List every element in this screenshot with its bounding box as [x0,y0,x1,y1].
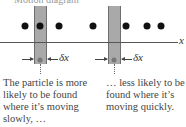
note-line: likely to be found [3,89,95,101]
note-line: moving quickly. [106,101,186,113]
note-line: where it’s moving [3,101,95,113]
interval-arrow-left [95,59,107,60]
fast-region-note: … less likely to be found where it’s mov… [106,77,186,113]
note-line: The particle is more [3,77,95,89]
particle-dot [144,23,151,30]
probability-marker [112,58,117,63]
leader-line [40,64,41,74]
interval-arrow-right [122,59,132,60]
note-line: … less likely to be [106,77,186,89]
top-caption: Motion diagram [14,0,79,5]
x-axis-label: x [179,34,184,46]
particle-dot [56,23,63,30]
interval-arrow-right [48,59,58,60]
slow-region-note: The particle is more likely to be found … [3,77,95,125]
particle-dot [123,23,130,30]
particle-dot [158,23,165,30]
particle-dot [90,23,97,30]
leader-line [114,64,115,74]
delta-x-label: δx [59,51,69,63]
delta-x-label: δx [133,51,143,63]
x-axis [0,42,178,43]
slow-region-bar [34,6,47,64]
particle-dot [37,23,44,30]
probability-marker [38,58,43,63]
interval-arrow-left [22,59,33,60]
note-line: found where it’s [106,89,186,101]
note-line: slowly, … [3,113,95,125]
fast-region-bar [108,6,121,64]
particle-dot [22,23,29,30]
